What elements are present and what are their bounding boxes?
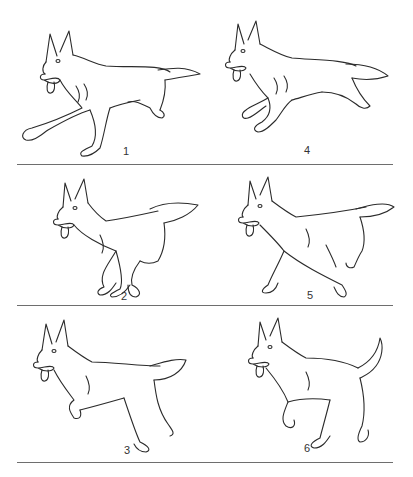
frame-label-3: 3: [124, 444, 130, 456]
dog-running-drawing-1: [0, 0, 206, 160]
frame-label-1: 1: [123, 145, 129, 157]
frame-label-2: 2: [121, 290, 127, 302]
frame-4: 4: [206, 0, 413, 160]
divider-row-3: [17, 462, 393, 463]
dog-running-drawing-6: [206, 306, 413, 462]
frame-2: 2: [0, 165, 206, 305]
dog-running-drawing-2: [0, 165, 206, 305]
frame-label-6: 6: [304, 442, 310, 454]
dog-running-drawing-3: [0, 306, 206, 462]
frame-6: 6: [206, 306, 413, 462]
frame-5: 5: [206, 165, 413, 305]
dog-running-drawing-4: [206, 0, 413, 160]
frame-1: 1: [0, 0, 206, 160]
dog-running-drawing-5: [206, 165, 413, 305]
frame-label-5: 5: [307, 289, 313, 301]
frame-label-4: 4: [304, 144, 310, 156]
frame-3: 3: [0, 306, 206, 462]
